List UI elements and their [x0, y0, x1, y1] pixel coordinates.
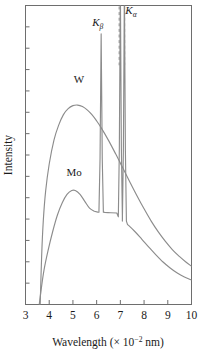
x-axis-label: Wavelength (× 10−2 nm) [52, 335, 164, 349]
series-curve-w [40, 105, 191, 304]
x-tick-label: 5 [70, 309, 76, 321]
x-tick-label: 6 [94, 309, 100, 321]
x-tick-label: 3 [23, 309, 29, 321]
xray-spectrum-figure: 345678910 KβKαWMo Intensity Wavelength (… [0, 0, 206, 359]
annotation-mo-label: Mo [66, 166, 82, 178]
x-tick-label: 9 [165, 309, 171, 321]
y-axis-ticks [26, 27, 30, 283]
annotation-k-alpha: Kα [124, 4, 137, 18]
x-axis-label-exponent: −2 [134, 335, 142, 344]
x-axis-label-tail: nm) [142, 336, 164, 349]
x-axis-ticks [26, 300, 192, 305]
x-axis-tick-labels: 345678910 [23, 309, 198, 321]
x-tick-label: 10 [186, 309, 198, 321]
x-tick-label: 8 [141, 309, 147, 321]
annotation-w-label: W [74, 73, 85, 85]
x-tick-label: 4 [46, 309, 52, 321]
annotation-k-beta: Kβ [91, 16, 103, 30]
x-tick-label: 7 [117, 309, 123, 321]
chart-svg: 345678910 KβKαWMo Intensity Wavelength (… [0, 0, 206, 359]
y-axis-label: Intensity [2, 135, 15, 175]
x-axis-label-main: Wavelength (× 10 [52, 336, 134, 349]
